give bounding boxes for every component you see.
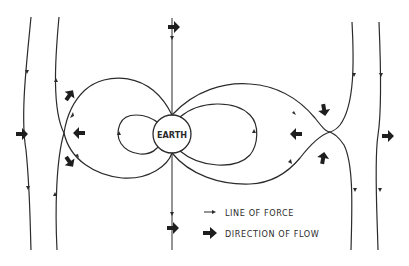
flow-arrow-right-lower-inward (316, 151, 330, 165)
field-line-far-right (376, 22, 381, 250)
earth-label: EARTH (157, 130, 187, 140)
flow-arrow-left-xpoint-inward (73, 127, 85, 139)
line-of-force-arrow (70, 112, 74, 118)
line-of-force-arrow (378, 188, 382, 192)
line-of-force-arrow (353, 188, 357, 192)
flow-arrow-right-xpoint-outward (290, 128, 302, 140)
flow-arrow-top (168, 21, 180, 33)
line-of-force-arrow (292, 111, 296, 115)
flow-arrow-far-left (16, 128, 28, 140)
flow-arrow-far-right (382, 130, 394, 142)
legend-line-of-force-arrowhead (212, 210, 216, 214)
field-line-left (55, 17, 64, 250)
flow-arrow-bottom (167, 222, 179, 234)
magnetosphere-diagram: EARTH (0, 0, 409, 266)
line-of-force-arrow (170, 212, 174, 216)
legend-line-of-force-label: LINE OF FORCE (225, 208, 294, 218)
legend-direction-of-flow-label: DIRECTION OF FLOW (225, 229, 319, 239)
field-line-outer-right-lower (172, 132, 330, 184)
legend-item-line-of-force: LINE OF FORCE (204, 208, 294, 218)
line-of-force-arrow (288, 159, 292, 164)
line-of-force-arrow (379, 73, 383, 77)
legend: LINE OF FORCE DIRECTION OF FLOW (203, 208, 319, 240)
flow-arrow-right-upper-inward (317, 103, 331, 117)
line-of-force-arrow (54, 78, 58, 82)
line-of-force-arrow (170, 36, 174, 40)
line-of-force-arrow (252, 129, 256, 133)
field-line-right (330, 22, 353, 250)
legend-direction-of-flow-symbol (203, 227, 217, 239)
legend-item-direction-of-flow: DIRECTION OF FLOW (203, 227, 319, 239)
